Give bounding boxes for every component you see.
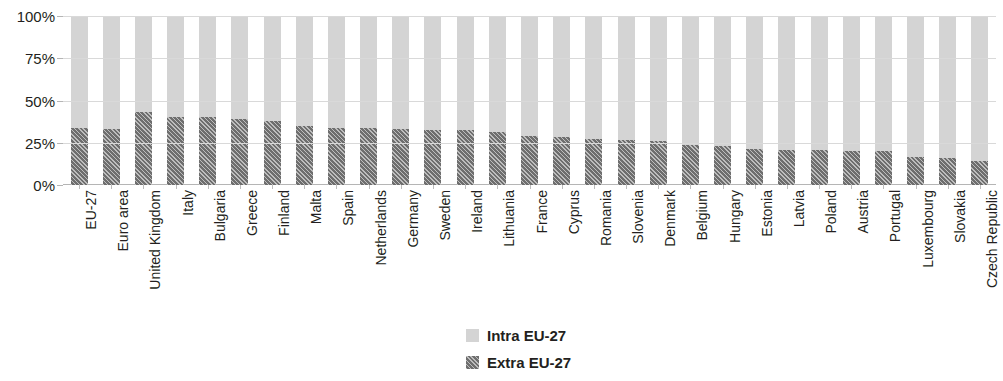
x-axis-label: United Kingdom [148, 190, 162, 290]
bar-segment-intra[interactable] [392, 16, 409, 129]
bar-segment-intra[interactable] [135, 16, 152, 112]
bar-segment-intra[interactable] [231, 16, 248, 119]
x-axis-label-text: Poland [824, 190, 838, 234]
bar-segment-extra[interactable] [296, 126, 313, 185]
bar-segment-extra[interactable] [746, 149, 763, 185]
bar-segment-extra[interactable] [392, 129, 409, 185]
bar-segment-extra[interactable] [199, 117, 216, 185]
x-axis-label-text: Denmark [663, 190, 677, 247]
bar-segment-intra[interactable] [585, 16, 602, 139]
x-axis-label-text: Euro area [116, 190, 130, 251]
bar-segment-intra[interactable] [618, 16, 635, 140]
bar-segment-extra[interactable] [939, 158, 956, 185]
x-tick-mark [530, 185, 531, 189]
bar-segment-extra[interactable] [71, 128, 88, 185]
x-axis-label: Germany [406, 190, 420, 248]
x-tick-mark [948, 185, 949, 189]
bar-segment-intra[interactable] [457, 16, 474, 130]
bar-segment-extra[interactable] [875, 151, 892, 185]
plot-area [63, 16, 996, 185]
bar-segment-intra[interactable] [939, 16, 956, 158]
bar-segment-intra[interactable] [682, 16, 699, 145]
bar-segment-extra[interactable] [135, 112, 152, 185]
bar-segment-extra[interactable] [682, 145, 699, 185]
bar-segment-extra[interactable] [103, 129, 120, 185]
x-axis-label: Bulgaria [213, 190, 227, 241]
x-tick-mark [272, 185, 273, 189]
x-axis-label-text: Finland [277, 190, 291, 236]
bar-segment-intra[interactable] [971, 16, 988, 161]
bar-segment-intra[interactable] [360, 16, 377, 128]
bar-segment-extra[interactable] [167, 117, 184, 185]
bar-segment-extra[interactable] [424, 130, 441, 185]
x-axis-label: Latvia [792, 190, 806, 227]
x-axis-label-text: France [535, 190, 549, 234]
bar-segment-extra[interactable] [618, 140, 635, 185]
legend-item-extra[interactable]: Extra EU-27 [0, 349, 1003, 376]
bar-segment-extra[interactable] [650, 141, 667, 185]
x-tick-mark [336, 185, 337, 189]
bar-segment-intra[interactable] [650, 16, 667, 141]
x-axis-label-text: Romania [599, 190, 613, 246]
x-axis-label-text: Hungary [728, 190, 742, 243]
bar-segment-intra[interactable] [778, 16, 795, 150]
y-tick-label-25: 25% [25, 136, 55, 151]
x-axis-label: Finland [277, 190, 291, 236]
legend-label-intra: Intra EU-27 [487, 327, 566, 344]
x-axis-label: Portugal [888, 190, 902, 242]
bar-segment-intra[interactable] [714, 16, 731, 146]
bar-segment-intra[interactable] [199, 16, 216, 117]
x-axis-label-text: Lithuania [502, 190, 516, 247]
bar-segment-intra[interactable] [875, 16, 892, 151]
bar-segment-intra[interactable] [521, 16, 538, 136]
bar-segment-intra[interactable] [553, 16, 570, 137]
bar-segment-extra[interactable] [778, 150, 795, 185]
bar-segment-extra[interactable] [489, 132, 506, 185]
bar-segment-extra[interactable] [553, 137, 570, 185]
bar-segment-extra[interactable] [907, 157, 924, 185]
x-axis-label-text: United Kingdom [148, 190, 162, 290]
bar-segment-extra[interactable] [264, 121, 281, 185]
bar-segment-extra[interactable] [585, 139, 602, 185]
bar-segment-extra[interactable] [231, 119, 248, 185]
x-tick-mark [369, 185, 370, 189]
bar-segment-intra[interactable] [103, 16, 120, 129]
bar-segment-intra[interactable] [746, 16, 763, 149]
bar-segment-intra[interactable] [71, 16, 88, 128]
x-axis-label: Ireland [470, 190, 484, 233]
x-axis-label-text: Malta [309, 190, 323, 224]
bar-segment-extra[interactable] [328, 128, 345, 185]
x-axis-label-text: Slovenia [631, 190, 645, 244]
bar-segment-intra[interactable] [296, 16, 313, 126]
x-axis-label: Luxembourg [921, 190, 935, 268]
x-axis-label-text: Germany [406, 190, 420, 248]
legend-swatch-intra-icon [466, 329, 479, 342]
x-tick-mark [208, 185, 209, 189]
legend-item-intra[interactable]: Intra EU-27 [0, 322, 1003, 349]
x-axis-label-text: Luxembourg [921, 190, 935, 268]
x-tick-mark [465, 185, 466, 189]
bar-segment-intra[interactable] [264, 16, 281, 121]
bar-segment-intra[interactable] [328, 16, 345, 128]
bar-segment-intra[interactable] [489, 16, 506, 132]
bar-segment-extra[interactable] [971, 161, 988, 185]
bar-segment-extra[interactable] [714, 146, 731, 185]
bar-segment-intra[interactable] [907, 16, 924, 157]
x-axis-label-text: Greece [245, 190, 259, 236]
x-tick-mark [690, 185, 691, 189]
bar-segment-extra[interactable] [360, 128, 377, 185]
x-axis-label: Denmark [663, 190, 677, 247]
x-axis-label: Romania [599, 190, 613, 246]
bar-segment-extra[interactable] [457, 130, 474, 185]
x-axis-label: Poland [824, 190, 838, 234]
bar-segment-intra[interactable] [424, 16, 441, 130]
y-axis: 0%25%50%75%100% [0, 0, 63, 201]
x-axis-label: Lithuania [502, 190, 516, 247]
bar-segment-extra[interactable] [811, 150, 828, 185]
y-tick-mark-0 [57, 185, 63, 186]
bar-segment-intra[interactable] [811, 16, 828, 150]
bar-segment-intra[interactable] [843, 16, 860, 151]
x-axis-label-text: Belgium [695, 190, 709, 241]
x-axis-label: Belgium [695, 190, 709, 241]
bar-segment-extra[interactable] [843, 151, 860, 185]
